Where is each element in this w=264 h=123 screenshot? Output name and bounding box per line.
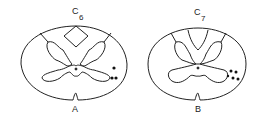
lesion-dots-a: [110, 66, 117, 79]
cord-outline-a: [21, 26, 127, 100]
panel-label-a: A: [72, 104, 78, 114]
spinal-cord-diagram: [0, 0, 264, 123]
segment-num-a: 6: [79, 13, 83, 22]
segment-label-b: C: [194, 7, 201, 17]
segment-label-a: C: [72, 6, 79, 16]
grey-matter-b: [168, 42, 227, 83]
segment-num-b: 7: [201, 14, 205, 23]
lesion-dots-b: [227, 70, 240, 81]
panel-label-b: B: [195, 104, 201, 114]
